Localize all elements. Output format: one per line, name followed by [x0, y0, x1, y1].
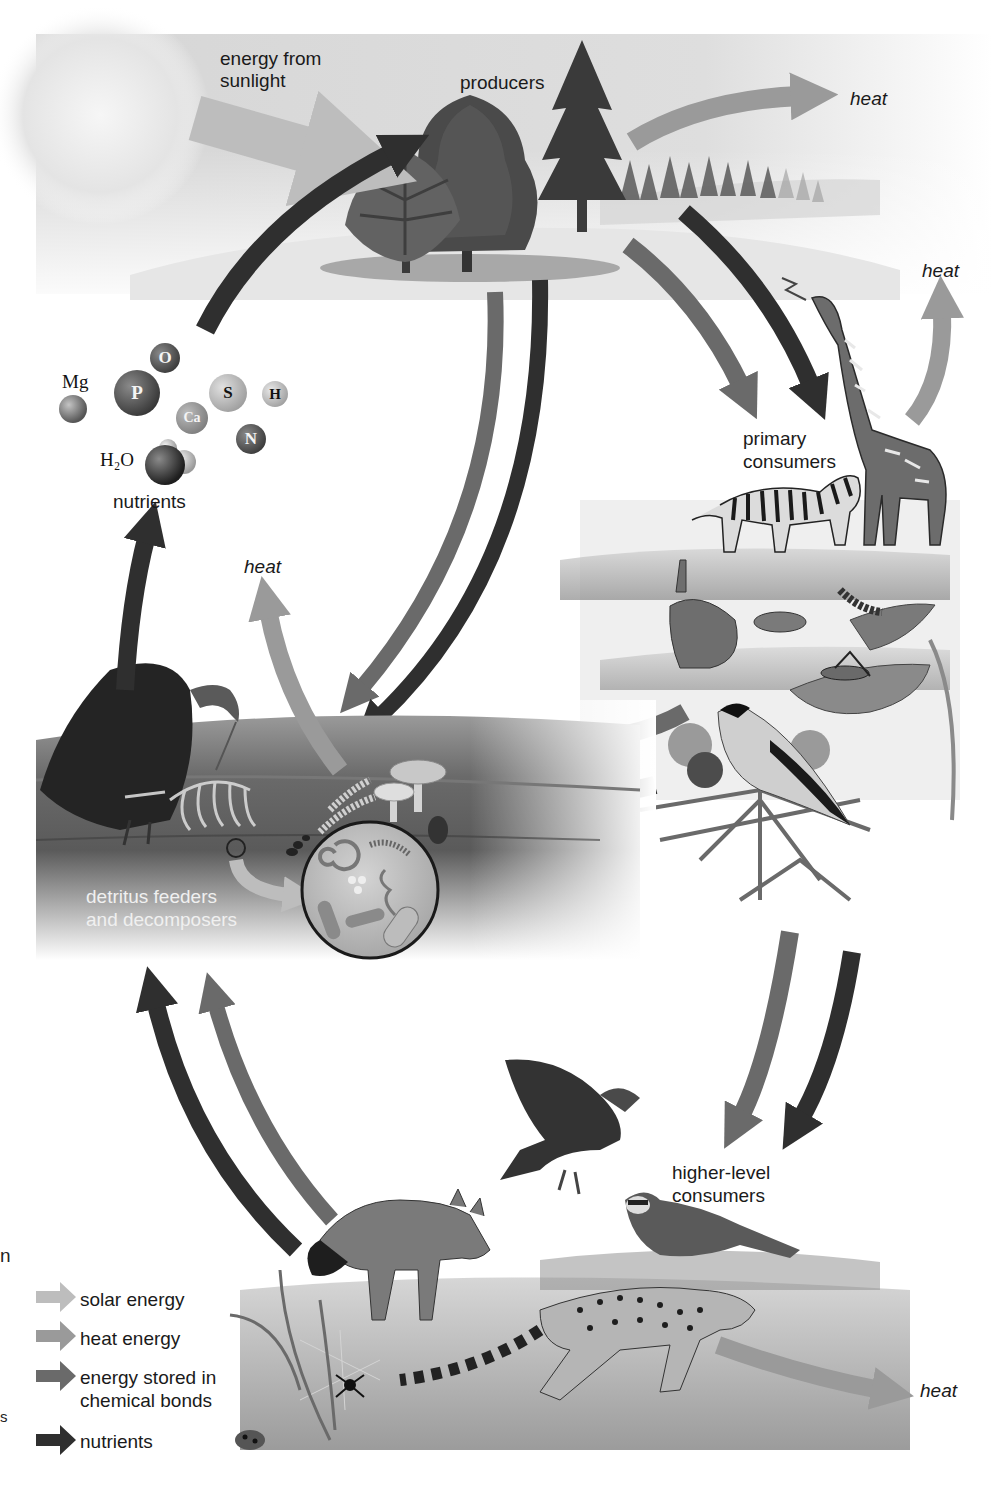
legend-solar-label: solar energy	[80, 1289, 185, 1310]
heat-label-decomposers: heat	[244, 556, 281, 577]
element-sulfur: S	[209, 374, 247, 412]
detritus-label-1: detritus feeders	[86, 886, 217, 907]
higher-level-label-2: consumers	[672, 1185, 765, 1206]
sun-icon	[0, 5, 210, 225]
legend-chemical-label-1: energy stored in	[80, 1367, 216, 1388]
producers-to-decomposers-nutrients-arrow	[378, 280, 540, 718]
producers-to-decomposers-chem-arrow	[360, 292, 496, 690]
microorganisms-circle	[302, 822, 438, 958]
diagram-artwork	[0, 0, 992, 1488]
legend-heat-label: heat energy	[80, 1328, 180, 1349]
element-water-label: H₂O	[100, 449, 134, 471]
ecosystem-diagram: energy from sunlight producers heat heat…	[0, 0, 992, 1488]
primary-consumers-label-1: primary	[743, 428, 806, 449]
element-magnesium-label: Mg	[62, 371, 88, 393]
primary-to-higher-nutrients-arrow	[800, 952, 852, 1120]
heat-label-higher: heat	[920, 1380, 957, 1401]
legend-chemical-icon	[36, 1361, 76, 1391]
element-oxygen: O	[150, 343, 180, 373]
legend-heat-icon	[36, 1321, 76, 1351]
heat-label-producers: heat	[850, 88, 887, 109]
sunlight-label-1: energy from	[220, 48, 321, 69]
primary-consumers-label-2: consumers	[743, 451, 836, 472]
mouse	[754, 612, 806, 632]
legend-chemical-label-2: chemical bonds	[80, 1390, 212, 1411]
detritus-label-2: and decomposers	[86, 909, 237, 930]
legend-solar-icon	[36, 1282, 76, 1312]
primary-to-higher-chem-arrow	[740, 932, 790, 1118]
sunlight-label-2: sunlight	[220, 70, 286, 91]
element-nitrogen: N	[236, 424, 266, 454]
clipped-text-fragment: n	[0, 1245, 11, 1267]
higher-level-label-1: higher-level	[672, 1162, 770, 1183]
heat-label-primary: heat	[922, 260, 959, 281]
producers-label: producers	[460, 72, 545, 93]
nutrients-label: nutrients	[113, 491, 186, 512]
element-phosphorus: P	[114, 370, 160, 416]
legend-nutrients-label: nutrients	[80, 1431, 153, 1452]
heat-arrow-primary	[912, 310, 942, 420]
clipped-text-fragment: s	[0, 1408, 8, 1425]
element-calcium: Ca	[176, 402, 208, 434]
legend-nutrients-icon	[36, 1425, 76, 1455]
legend-arrows	[36, 1282, 76, 1455]
ladybug	[235, 1430, 265, 1450]
pill-bug	[428, 816, 448, 844]
element-hydrogen: H	[262, 381, 288, 407]
hawk	[500, 1059, 640, 1194]
